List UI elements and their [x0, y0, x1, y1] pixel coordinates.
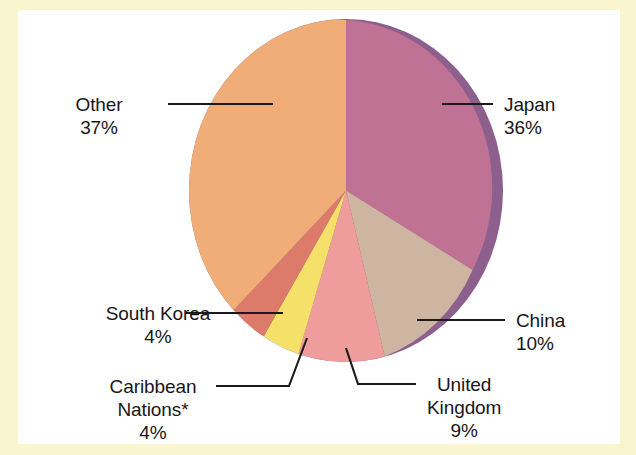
slice-label-japan-name: Japan — [504, 94, 555, 115]
slice-label-other-name: Other — [75, 94, 122, 115]
slice-label-south-korea-name: South Korea — [106, 303, 211, 324]
slice-label-caribbean-nations: Caribbean Nations* 4% — [96, 375, 210, 444]
pie-chart-figure: Japan 36% China 10% United Kingdom 9% Ca… — [0, 0, 636, 455]
slice-label-other-pct: 37% — [38, 116, 160, 139]
slice-label-china-pct: 10% — [516, 332, 565, 355]
slice-label-south-korea: South Korea 4% — [42, 302, 274, 348]
slice-label-other: Other 37% — [38, 93, 160, 139]
slice-label-south-korea-pct: 4% — [42, 325, 274, 348]
slice-label-japan: Japan 36% — [504, 93, 555, 139]
slice-label-uk-line1: United — [437, 374, 491, 395]
slice-label-uk-line2: Kingdom — [427, 396, 501, 419]
slice-label-china-name: China — [516, 310, 565, 331]
slice-label-caribbean-pct: 4% — [96, 421, 210, 444]
slice-label-united-kingdom: United Kingdom 9% — [427, 373, 501, 442]
slice-label-china: China 10% — [516, 309, 565, 355]
slice-label-japan-pct: 36% — [504, 116, 555, 139]
slice-label-caribbean-line1: Caribbean — [110, 376, 197, 397]
slice-label-caribbean-line2: Nations* — [96, 398, 210, 421]
slice-label-uk-pct: 9% — [427, 419, 501, 442]
